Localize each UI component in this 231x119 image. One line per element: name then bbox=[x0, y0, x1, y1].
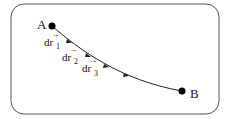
vector-arrow-icon: → bbox=[89, 56, 97, 65]
point-b-dot bbox=[179, 88, 186, 95]
point-b-label: B bbox=[190, 86, 199, 101]
segment-label-2: dr → 2 bbox=[62, 45, 78, 66]
path-diagram: A B dr → 1 dr → 2 dr → 3 bbox=[0, 0, 231, 119]
point-a-label: A bbox=[37, 17, 47, 32]
seg1-sub: 1 bbox=[56, 42, 60, 51]
seg2-sub: 2 bbox=[74, 57, 78, 66]
vector-arrow-icon: → bbox=[69, 45, 77, 54]
curve-path bbox=[52, 26, 182, 91]
point-a-dot bbox=[49, 23, 56, 30]
segment-label-3: dr → 3 bbox=[82, 56, 98, 78]
vector-arrow-icon: → bbox=[51, 30, 59, 39]
segment-label-1: dr → 1 bbox=[44, 30, 60, 51]
seg3-sub: 3 bbox=[94, 69, 98, 78]
